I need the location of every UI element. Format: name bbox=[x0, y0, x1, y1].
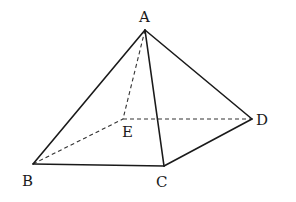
vertex-label-c: C bbox=[156, 173, 167, 191]
edge-AB bbox=[33, 30, 145, 164]
edge-AC bbox=[145, 30, 164, 166]
vertex-label-e: E bbox=[122, 123, 133, 141]
vertex-label-b: B bbox=[22, 172, 33, 190]
vertex-label-a: A bbox=[138, 8, 150, 26]
edge-BC bbox=[33, 164, 164, 166]
vertex-label-d: D bbox=[256, 111, 268, 129]
pyramid-diagram: A B C D E bbox=[0, 0, 296, 202]
edge-CD bbox=[164, 119, 252, 166]
edge-AD bbox=[145, 30, 252, 119]
edge-BE bbox=[33, 119, 123, 164]
